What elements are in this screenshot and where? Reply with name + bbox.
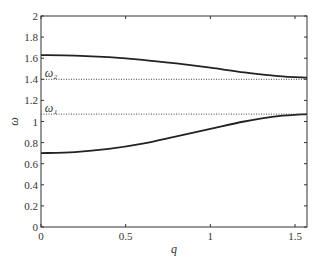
y-tick-label: 1.2: [24, 94, 38, 106]
y-tick-label: 1: [33, 116, 39, 128]
y-tick-label: 2: [33, 10, 39, 22]
annotation-omega1: ω₁: [45, 101, 58, 115]
x-tick-label: 1.5: [288, 230, 302, 242]
y-tick-label: 0.8: [24, 137, 38, 149]
y-tick-label: 0.4: [24, 179, 38, 191]
y-tick-label: 0.6: [24, 158, 38, 170]
y-tick-label: 1.6: [24, 52, 38, 64]
y-tick-label: 1.8: [24, 31, 38, 43]
curve-lower-branch: [41, 114, 307, 153]
y-axis-label: ω: [7, 117, 21, 125]
x-axis-label: q: [171, 242, 177, 256]
plot-frame: [41, 16, 307, 227]
x-tick-label: 0: [38, 230, 44, 242]
x-tick-label: 0.5: [119, 230, 133, 242]
y-tick-label: 0.2: [24, 200, 38, 212]
y-tick-label: 1.4: [24, 73, 38, 85]
x-tick-label: 1: [208, 230, 214, 242]
annotation-omega2: ω₂: [45, 66, 58, 80]
y-tick-label: 0: [33, 221, 39, 233]
curve-upper-branch: [41, 55, 307, 78]
dispersion-chart: 00.511.500.20.40.60.811.21.41.61.82qωω₂ω…: [0, 0, 320, 262]
